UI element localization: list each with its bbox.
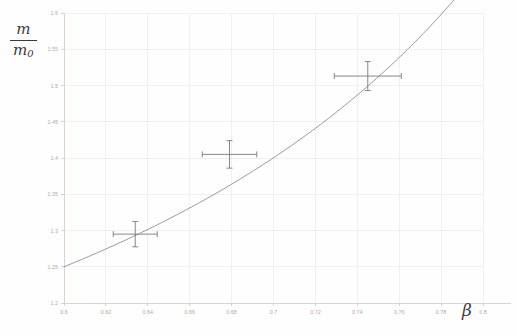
x-axis-tick-label: 0.8	[479, 309, 487, 315]
y-axis-tick-label: 1.6	[51, 10, 59, 16]
data-point-errorbar	[334, 62, 401, 91]
x-axis-tick-label: 0.68	[226, 309, 237, 315]
y-axis-tick-label: 1.45	[48, 119, 59, 125]
x-axis-label: β	[462, 300, 472, 320]
y-axis-tick-label: 1.2	[51, 300, 59, 306]
data-points-layer	[113, 62, 401, 247]
y-axis-tick-label: 1.3	[51, 228, 59, 234]
y-axis-tick-label: 1.25	[48, 264, 59, 270]
y-axis-tick-label: 1.55	[48, 46, 59, 52]
fit-curve	[64, 0, 454, 267]
chart-figure: 0.60.620.640.660.680.70.720.740.760.780.…	[0, 0, 517, 336]
y-axis-tick-label: 1.4	[51, 155, 59, 161]
x-axis-tick-label: 0.74	[352, 309, 363, 315]
plot-canvas: 0.60.620.640.660.680.70.720.740.760.780.…	[0, 0, 517, 336]
x-axis-tick-label: 0.64	[143, 309, 154, 315]
fit-curve-layer	[64, 0, 454, 267]
x-axis-tick-label: 0.76	[394, 309, 405, 315]
x-axis-tick-label: 0.72	[310, 309, 321, 315]
data-point-errorbar	[202, 141, 256, 169]
x-axis-tick-label: 0.7	[270, 309, 278, 315]
axis-layer	[61, 13, 511, 306]
x-axis-tick-label: 0.78	[436, 309, 447, 315]
y-axis-label-denominator: m0	[10, 42, 37, 59]
y-axis-label-denominator-subscript: 0	[27, 48, 33, 59]
y-axis-label: m m0	[10, 22, 37, 59]
y-axis-label-denominator-symbol: m	[13, 41, 27, 59]
x-axis-tick-label: 0.6	[60, 309, 68, 315]
y-axis-tick-label: 1.5	[51, 83, 59, 89]
x-axis-tick-label: 0.66	[184, 309, 195, 315]
x-axis-tick-label: 0.62	[101, 309, 112, 315]
y-axis-label-numerator: m	[10, 22, 37, 39]
y-axis-tick-label: 1.35	[48, 191, 59, 197]
